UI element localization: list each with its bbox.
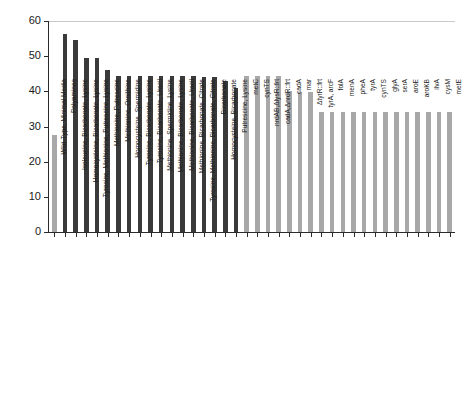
x-tick-label: Methionine, Bicarbonate, Lysine bbox=[175, 79, 186, 239]
x-tick-label: Tyrosine, Bicarbonate, Lysine bbox=[143, 79, 154, 239]
y-tick-mark bbox=[44, 91, 48, 92]
x-tick-label: serA bbox=[399, 79, 410, 239]
y-tick-mark bbox=[44, 127, 48, 128]
y-tick-label: 10 bbox=[29, 190, 41, 202]
x-tick-label: menA bbox=[346, 79, 357, 239]
x-tick-label: ΔtyrR::frt bbox=[314, 79, 325, 239]
bar-chart-figure: MIC 3-HP (g/L) 0102030405060 Wild-Type, … bbox=[0, 0, 465, 401]
y-tick-mark bbox=[44, 56, 48, 57]
y-tick-label: 40 bbox=[29, 84, 41, 96]
x-tick-label: Homocysteine, Spermidine bbox=[132, 79, 143, 239]
x-tick-label: nrdAB,ΔlysR::frt bbox=[271, 79, 282, 239]
x-tick-label: Methionine, Bicarbonate, Citrate bbox=[196, 79, 207, 239]
x-tick-label: tyrA bbox=[367, 79, 378, 239]
x-tick-label: ilvA bbox=[431, 79, 442, 239]
x-tick-label: cynTS bbox=[261, 79, 272, 239]
x-tick-label: Tyrosine, Methionine, Bicarbonate, Citra… bbox=[207, 79, 218, 239]
x-tick-label: Wild-Type, Minimal Media bbox=[58, 79, 69, 239]
x-tick-label: aroE bbox=[410, 79, 421, 239]
x-tick-label: tyrA, arcF bbox=[325, 79, 336, 239]
x-tick-label: mar bbox=[303, 79, 314, 239]
y-tick-label: 60 bbox=[29, 14, 41, 26]
bar bbox=[52, 135, 57, 232]
y-tick-label: 20 bbox=[29, 155, 41, 167]
x-tick-label: Methionine, Ornithine bbox=[122, 79, 133, 239]
x-tick-label: metC bbox=[250, 79, 261, 239]
x-tick-label: cadA,ΔnrdR::frt bbox=[282, 79, 293, 239]
x-tick-label: cadA bbox=[293, 79, 304, 239]
y-tick-mark bbox=[44, 232, 48, 233]
x-tick-label: cynTS bbox=[378, 79, 389, 239]
x-tick-mark bbox=[54, 233, 55, 237]
x-tick-label: folA bbox=[335, 79, 346, 239]
y-tick-mark bbox=[44, 162, 48, 163]
y-tick-label: 0 bbox=[35, 225, 41, 237]
x-tick-label: Isoleucine, Bicarbonate, Lysine bbox=[79, 79, 90, 239]
x-tick-label: Methionine, Spermidine, Lysine bbox=[164, 79, 175, 239]
x-tick-label: Putrescine, Lysine bbox=[239, 79, 250, 239]
y-tick-label: 30 bbox=[29, 120, 41, 132]
x-tick-label: Polyamines bbox=[68, 79, 79, 239]
y-tick-mark bbox=[44, 197, 48, 198]
x-tick-label: cysM bbox=[442, 79, 453, 239]
x-axis-tick-labels: Wild-Type, Minimal MediaPolyaminesIsoleu… bbox=[49, 239, 455, 399]
x-tick-label: Homocysteine, Bicarbonate bbox=[228, 79, 239, 239]
x-tick-label: Tyrosine, Methionine, Putrescine, Lysine bbox=[100, 79, 111, 239]
x-tick-label: Methionine, Putrescine bbox=[111, 79, 122, 239]
y-tick-mark bbox=[44, 21, 48, 22]
x-tick-label: Homocysteine, Bicarbonate, Lysine bbox=[90, 79, 101, 239]
x-tick-label: metE bbox=[453, 79, 464, 239]
y-tick-label: 50 bbox=[29, 49, 41, 61]
